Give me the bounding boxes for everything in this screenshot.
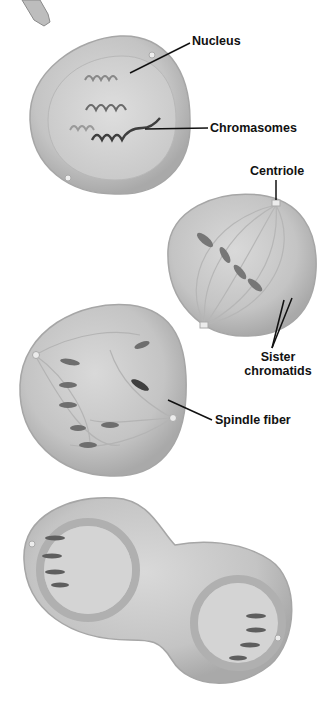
nucleus-label: Nucleus xyxy=(192,34,241,48)
chromasomes-label: Chromasomes xyxy=(210,121,297,135)
anaphase-cell xyxy=(20,304,186,476)
telophase-cell xyxy=(24,498,292,683)
arrow-fragment xyxy=(22,0,50,26)
metaphase-cell xyxy=(168,194,316,336)
centriole-label: Centriole xyxy=(250,164,304,178)
sister-chromatids-label: Sister chromatids xyxy=(242,350,314,378)
prophase-cell xyxy=(30,36,190,194)
spindle-fiber-label: Spindle fiber xyxy=(215,413,291,427)
sister-label-line2: chromatids xyxy=(242,364,314,378)
chromasomes-leader-line xyxy=(145,128,208,129)
sister-label-line1: Sister xyxy=(242,350,314,364)
